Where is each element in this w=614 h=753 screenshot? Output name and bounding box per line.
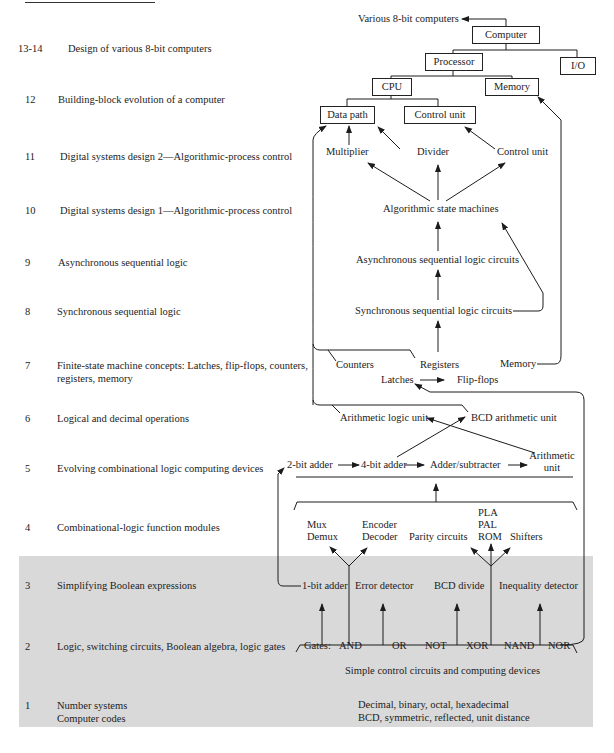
arithmetic-unit-label: Arithmetic unit (527, 450, 577, 474)
memory-box: Memory (485, 78, 539, 96)
flip-flops-label: Flip-flops (457, 374, 498, 386)
bcd-divide-label: BCD divide (434, 580, 484, 592)
error-detector-label: Error detector (355, 580, 414, 592)
demux-label: Demux (307, 531, 338, 543)
computer-box: Computer (472, 26, 540, 44)
shifters-label: Shifters (510, 531, 543, 543)
multiplier-label: Multiplier (326, 146, 369, 158)
decoder-label: Decoder (362, 531, 398, 543)
gate-and: AND (339, 640, 362, 652)
encoder-label: Encoder (362, 519, 398, 531)
data-path-box: Data path (320, 106, 375, 124)
gates-label: Gates: (304, 640, 331, 652)
arithmetic-unit-line1: Arithmetic (527, 450, 577, 462)
gate-xor: XOR (466, 640, 488, 652)
sync-sequential-circuits-label: Synchronous sequential logic circuits (355, 305, 512, 317)
number-systems-detail: Decimal, binary, octal, hexadecimal (358, 699, 509, 711)
io-box: I/O (560, 57, 596, 75)
1-bit-adder-label: 1-bit adder (302, 580, 348, 592)
simple-control-circuits-label: Simple control circuits and computing de… (345, 665, 540, 677)
2-bit-adder-label: 2-bit adder (287, 459, 333, 471)
divider-label: Divider (417, 146, 449, 158)
arithmetic-unit-line2: unit (527, 462, 577, 474)
counters-label: Counters (336, 359, 374, 371)
memory-label: Memory (500, 358, 536, 370)
various-8bit-computers-label: Various 8-bit computers (358, 13, 459, 25)
cpu-box: CPU (372, 78, 412, 96)
bcd-arithmetic-unit-label: BCD arithmetic unit (471, 412, 557, 424)
computer-codes-detail: BCD, symmetric, reflected, unit distance (358, 712, 530, 724)
control-unit-label: Control unit (497, 146, 548, 158)
algorithmic-state-machines-label: Algorithmic state machines (383, 203, 498, 215)
mux-demux-label: Mux Demux (307, 519, 338, 543)
pla-label: PLA (478, 507, 502, 519)
gate-nor: NOR (548, 640, 570, 652)
processor-box: Processor (425, 53, 483, 71)
latches-label: Latches (381, 374, 414, 386)
parity-circuits-label: Parity circuits (409, 531, 468, 543)
gate-nand: NAND (504, 640, 534, 652)
control-unit-box: Control unit (404, 106, 476, 124)
pal-label: PAL (478, 519, 502, 531)
gate-or: OR (392, 640, 407, 652)
async-sequential-circuits-label: Asynchronous sequential logic circuits (356, 254, 519, 266)
4-bit-adder-label: 4-bit adder (361, 459, 407, 471)
gate-not: NOT (425, 640, 447, 652)
pla-pal-rom-label: PLA PAL ROM (478, 507, 502, 543)
adder-subtracter-label: Adder/subtracter (430, 459, 501, 471)
alu-label: Arithmetic logic unit (340, 412, 428, 424)
encoder-decoder-label: Encoder Decoder (362, 519, 398, 543)
registers-label: Registers (420, 359, 459, 371)
inequality-detector-label: Inequality detector (499, 580, 578, 592)
mux-label: Mux (307, 519, 338, 531)
rom-label: ROM (478, 531, 502, 543)
